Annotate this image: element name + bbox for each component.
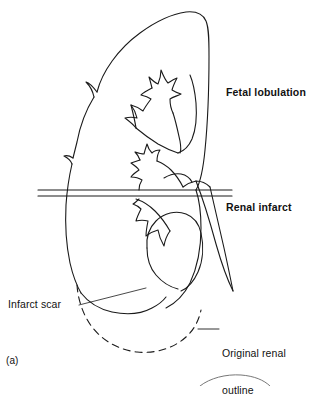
- renal-pelvis-lower: [147, 212, 203, 291]
- label-fetal-lobulation: Fetal lobulation: [226, 86, 306, 98]
- fetal-lobulation-notch-upper: [86, 82, 97, 97]
- label-original-renal-outline-line2: outline: [222, 384, 286, 396]
- figure-panel-label: (a): [6, 355, 19, 367]
- label-infarct-scar: Infarct scar: [8, 298, 61, 310]
- upper-calyx-infundibulum: [136, 128, 178, 153]
- kidney-outline-left-lower: [66, 164, 81, 293]
- label-original-renal-outline-line1: Original renal: [222, 347, 286, 359]
- kidney-outline-left-upper: [73, 97, 94, 158]
- leader-line-infarct-scar: [79, 288, 146, 305]
- upper-calyx: [149, 70, 181, 113]
- label-renal-infarct: Renal infarct: [226, 201, 292, 213]
- middle-calyx: [135, 144, 160, 161]
- middle-calyx-lower-spikes: [131, 160, 142, 190]
- renal-pelvis-lower-left: [147, 248, 178, 289]
- label-original-renal-outline: Original renal outline: [222, 322, 286, 398]
- renal-pelvis-upper: [173, 113, 181, 153]
- kidney-outline-upper-lateral: [97, 12, 209, 190]
- upper-calyx-stem-left: [125, 88, 152, 128]
- renal-pelvis-upper-right: [178, 75, 196, 153]
- fetal-lobulation-notch-lower: [64, 156, 73, 164]
- infarct-scar-curve: [81, 293, 166, 314]
